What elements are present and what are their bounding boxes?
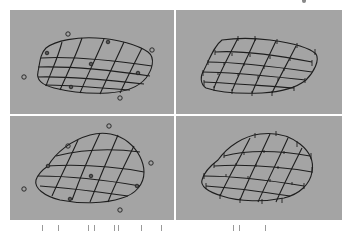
surface-patch-deformed-circles bbox=[10, 116, 174, 220]
figure-grid bbox=[10, 10, 342, 220]
panel-top-left bbox=[10, 10, 174, 114]
caption-clipped-glyphs bbox=[0, 225, 350, 231]
surface-patch-uniform-ticks bbox=[176, 10, 342, 114]
surface-patch-deformed-ticks bbox=[176, 116, 342, 220]
surface-patch-uniform-circles bbox=[10, 10, 174, 114]
clipped-top-glyph bbox=[302, 0, 306, 3]
panel-bottom-left bbox=[10, 116, 174, 220]
clipped-caption bbox=[0, 221, 350, 231]
panel-top-right bbox=[176, 10, 342, 114]
panel-bottom-right bbox=[176, 116, 342, 220]
